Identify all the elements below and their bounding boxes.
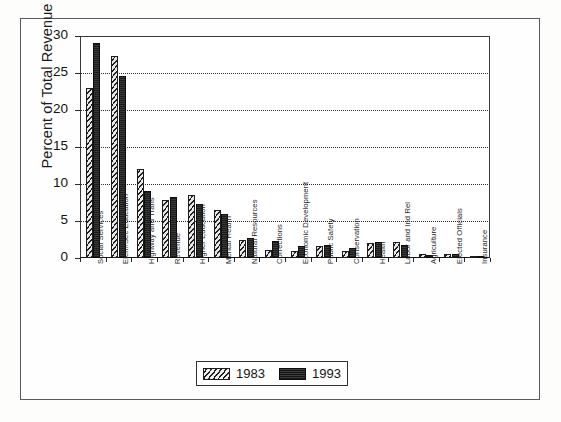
x-axis-label: Higher Education xyxy=(198,204,207,264)
x-tick-mark xyxy=(208,258,209,262)
y-tick-label: 5 xyxy=(38,212,68,227)
x-axis-label: Conservation xyxy=(352,218,361,264)
bars-container xyxy=(80,36,490,258)
x-tick-mark xyxy=(183,258,184,262)
x-tick-mark xyxy=(234,258,235,262)
x-tick-mark xyxy=(362,258,363,262)
x-tick-mark xyxy=(157,258,158,262)
x-tick-mark xyxy=(285,258,286,262)
x-axis-label: Insurance xyxy=(480,230,489,264)
x-axis-label: Social Services xyxy=(96,211,105,264)
x-axis-label: Elem/Sec Education xyxy=(121,194,130,264)
x-tick-mark xyxy=(106,258,107,262)
y-tick-label: 0 xyxy=(38,249,68,264)
bar-group xyxy=(80,36,490,258)
y-tick-label: 10 xyxy=(38,175,68,190)
x-tick-mark xyxy=(259,258,260,262)
x-axis-label: Revenue xyxy=(173,233,182,264)
x-axis-label: Corrections xyxy=(275,224,284,264)
x-axis-label: Economic Development xyxy=(301,182,310,264)
x-axis-label: Elected Officials xyxy=(455,208,464,264)
legend-item: 1983 xyxy=(203,366,265,381)
x-tick-mark xyxy=(490,258,491,262)
y-tick-label: 20 xyxy=(38,101,68,116)
x-axis-label: Public Safety xyxy=(326,218,335,264)
x-axis-label: Mental Health xyxy=(224,216,233,264)
x-axis-label: Health xyxy=(378,241,387,264)
legend-item: 1993 xyxy=(279,366,341,381)
x-axis-label: Agriculture xyxy=(429,227,438,264)
legend-label: 1993 xyxy=(312,366,341,381)
legend-swatch-1993 xyxy=(279,368,306,380)
y-tick-label: 25 xyxy=(38,64,68,79)
x-tick-mark xyxy=(388,258,389,262)
x-tick-mark xyxy=(464,258,465,262)
x-axis-label: Labor and Ind Rel xyxy=(403,202,412,264)
legend-label: 1983 xyxy=(236,366,265,381)
x-tick-mark xyxy=(311,258,312,262)
x-axis-label: Natural Resources xyxy=(250,199,259,264)
x-tick-mark xyxy=(80,258,81,262)
x-tick-mark xyxy=(131,258,132,262)
x-axis-labels: Social ServicesElem/Sec EducationHighway… xyxy=(80,264,490,359)
bar-chart: Percent of Total Revenue 051015202530 So… xyxy=(0,0,561,422)
y-tick-label: 30 xyxy=(38,27,68,42)
legend: 19831993 xyxy=(196,361,348,386)
x-tick-mark xyxy=(439,258,440,262)
x-axis-label: Highway and Trans xyxy=(147,197,156,264)
x-tick-mark xyxy=(336,258,337,262)
y-tick-label: 15 xyxy=(38,138,68,153)
x-tick-mark xyxy=(413,258,414,262)
legend-swatch-1983 xyxy=(203,368,230,380)
